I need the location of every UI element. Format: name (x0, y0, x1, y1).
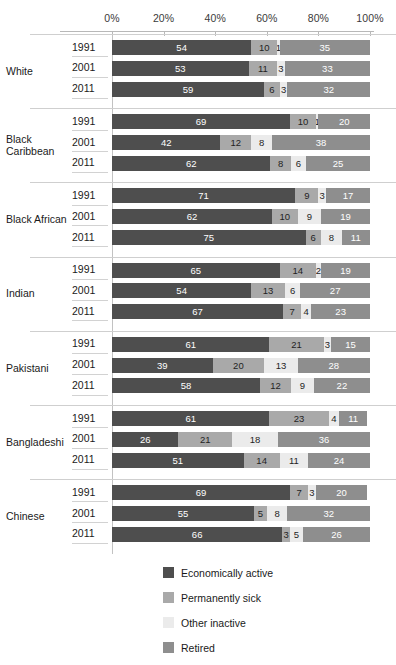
bar-segment-sick: 14 (244, 453, 280, 468)
stacked-bar: 6123411 (112, 411, 370, 426)
chart-row: 20115812922 (0, 376, 396, 395)
bar-segment-value: 66 (192, 529, 203, 540)
group-divider (30, 182, 396, 183)
row-year-label: 1991 (72, 483, 108, 502)
bar-segment-value: 61 (185, 413, 196, 424)
row-year-label: 1991 (72, 112, 108, 131)
bar-segment-active: 26 (112, 432, 178, 447)
group-rows: 1991719317200162109192011756811 (0, 186, 396, 248)
x-axis-tick-label: 40% (205, 12, 226, 24)
x-axis-tick-label: 20% (153, 12, 174, 24)
chart-row: 200139201328 (0, 356, 396, 375)
bar-segment-retired: 17 (326, 188, 370, 203)
legend-label: Permanently sick (181, 592, 261, 604)
legend-label: Retired (181, 642, 215, 654)
row-year-label: 2011 (72, 302, 108, 321)
bar-segment-value: 42 (161, 137, 172, 148)
bar-segment-retired: 19 (321, 209, 370, 224)
stacked-bar: 719317 (112, 188, 370, 203)
bar-segment-active: 71 (112, 188, 295, 203)
bar-segment-other: 6 (291, 156, 306, 171)
legend-label: Economically active (181, 567, 273, 579)
legend-swatch-icon (163, 592, 174, 603)
bar-segment-other: 5 (290, 527, 303, 542)
bar-segment-other: 3 (277, 61, 285, 76)
row-year-label: 2011 (72, 154, 108, 173)
chart-row: 20015311333 (0, 59, 396, 78)
row-year-label: 2001 (72, 59, 108, 78)
row-year-label: 1991 (72, 409, 108, 428)
stacked-bar-chart: 0%20%40%60%80%100% White1991541013520015… (0, 0, 396, 665)
legend-swatch-icon (163, 642, 174, 653)
bar-segment-retired: 35 (280, 40, 370, 55)
group-rows: 19915410135200153113332011596332 (0, 38, 396, 100)
bar-segment-value: 10 (298, 116, 309, 127)
bar-segment-sick: 6 (306, 230, 321, 245)
legend-item-active[interactable]: Economically active (0, 560, 396, 585)
x-axis-tick-label: 60% (256, 12, 277, 24)
bar-segment-other: 3 (308, 485, 316, 500)
bar-segment-value: 8 (274, 508, 279, 519)
bar-segment-value: 8 (278, 158, 283, 169)
bar-segment-value: 6 (290, 285, 295, 296)
bar-segment-value: 14 (292, 265, 303, 276)
bar-segment-value: 58 (181, 380, 192, 391)
bar-segment-sick: 12 (220, 135, 251, 150)
bar-segment-other: 11 (280, 453, 308, 468)
bar-segment-retired: 11 (342, 230, 370, 245)
bar-segment-active: 61 (112, 411, 269, 426)
bar-segment-active: 53 (112, 61, 249, 76)
group-divider (30, 479, 396, 480)
stacked-bar: 6910120 (112, 114, 370, 129)
bar-segment-value: 11 (258, 63, 268, 74)
bar-segment-value: 11 (351, 232, 361, 243)
bar-segment-active: 61 (112, 337, 269, 352)
bar-segment-value: 65 (191, 265, 202, 276)
bar-segment-value: 9 (300, 380, 305, 391)
bar-segment-other: 4 (329, 411, 339, 426)
bar-segment-value: 8 (259, 137, 264, 148)
stacked-bar: 39201328 (112, 358, 370, 373)
bar-segment-value: 17 (343, 190, 354, 201)
chart-row: 19916910120 (0, 112, 396, 131)
bar-segment-sick: 10 (272, 209, 298, 224)
bar-segment-value: 13 (263, 285, 274, 296)
chart-row: 19915410135 (0, 38, 396, 57)
bar-segment-value: 3 (281, 84, 286, 95)
bar-segment-value: 3 (283, 529, 288, 540)
chart-row: 2011663526 (0, 525, 396, 544)
bar-segment-active: 54 (112, 283, 251, 298)
bar-segment-value: 7 (289, 306, 294, 317)
legend-item-sick[interactable]: Permanently sick (0, 585, 396, 610)
stacked-bar: 26211836 (112, 432, 370, 447)
bar-segment-value: 22 (337, 380, 348, 391)
x-axis: 0%20%40%60%80%100% (0, 0, 396, 34)
bar-segment-value: 38 (316, 137, 327, 148)
bar-segment-retired: 24 (308, 453, 370, 468)
bar-segment-value: 12 (270, 380, 281, 391)
bar-segment-other: 9 (291, 378, 314, 393)
legend-item-retired[interactable]: Retired (0, 635, 396, 660)
group-divider (30, 331, 396, 332)
bar-segment-retired: 32 (287, 82, 370, 97)
bar-segment-value: 69 (196, 487, 207, 498)
bar-segment-value: 6 (269, 84, 274, 95)
bar-segment-value: 32 (323, 508, 334, 519)
legend-item-other[interactable]: Other inactive (0, 610, 396, 635)
bar-segment-value: 10 (280, 211, 291, 222)
row-year-label: 2011 (72, 525, 108, 544)
ethnicity-group: White19915410135200153113332011596332 (0, 34, 396, 108)
chart-row: 1991719317 (0, 186, 396, 205)
bar-segment-value: 20 (336, 487, 347, 498)
bar-segment-value: 13 (276, 360, 287, 371)
plot-area: White19915410135200153113332011596332Bla… (0, 34, 396, 554)
bar-segment-other: 3 (280, 82, 288, 97)
bar-segment-value: 19 (340, 211, 351, 222)
bar-segment-retired: 20 (318, 114, 370, 129)
bar-segment-value: 15 (345, 339, 356, 350)
row-year-label: 2011 (72, 80, 108, 99)
legend-swatch-icon (163, 617, 174, 628)
stacked-bar: 5311333 (112, 61, 370, 76)
bar-segment-sick: 11 (249, 61, 277, 76)
bar-segment-value: 25 (333, 158, 344, 169)
